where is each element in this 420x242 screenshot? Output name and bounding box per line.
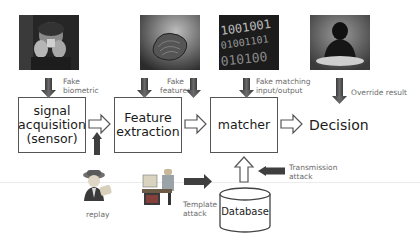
- decision-label: Decision: [309, 117, 369, 133]
- matcher-box: matcher: [210, 97, 278, 153]
- database-label: Database: [218, 206, 272, 217]
- replay-label: replay: [86, 210, 109, 219]
- database-cylinder: Database: [218, 186, 272, 234]
- override-hacker-photo: [310, 15, 370, 70]
- replay-arrow-up-icon: [92, 132, 102, 155]
- template-attack-label: Template attack: [183, 200, 217, 218]
- flow-arrow-signal-to-feature-icon: [89, 115, 110, 133]
- fake-features-arrow-left-icon: [137, 78, 152, 98]
- fake-biometric-photo: [19, 15, 79, 70]
- fake-matching-photo: 1001001 01001101 010100: [219, 15, 279, 70]
- fake-biometric-arrow-icon: [41, 78, 56, 98]
- override-arrow-icon: [332, 78, 347, 104]
- fake-matching-label: Fake matching input/output: [256, 77, 311, 95]
- flow-arrow-feature-to-matcher-icon: [185, 115, 206, 133]
- background-divider: [0, 182, 420, 183]
- transmission-attack-arrow-icon: [258, 166, 285, 176]
- override-result-label: Override result: [351, 88, 407, 97]
- feature-extraction-box: Feature extraction: [114, 97, 182, 153]
- fake-biometric-label: Fake biometric: [63, 77, 99, 95]
- signal-acquisition-box: signal acquisition (sensor): [18, 97, 86, 153]
- fake-features-photo: [140, 15, 200, 70]
- fake-matching-arrow-icon: [239, 78, 254, 98]
- replay-spy-icon: [80, 168, 114, 202]
- flow-arrow-database-to-matcher-icon: [235, 157, 253, 182]
- fake-features-label: Fake features: [160, 77, 191, 95]
- template-attack-person-icon: [140, 167, 180, 207]
- flow-arrow-matcher-to-decision-icon: [281, 115, 302, 133]
- transmission-attack-label: Transmission attack: [289, 163, 337, 181]
